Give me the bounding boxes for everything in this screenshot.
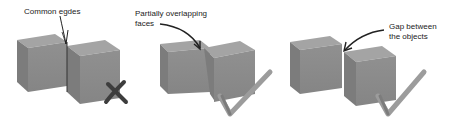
- cube-left-3: [290, 36, 342, 94]
- cube-left-2: [160, 40, 210, 94]
- panel-gap-between: [290, 30, 424, 114]
- diagram-canvas: [0, 0, 452, 126]
- panel-overlapping-faces: [160, 24, 270, 114]
- cube-left-1: [17, 34, 67, 92]
- panel-common-edges: [17, 16, 126, 104]
- cube-right-3: [344, 46, 396, 106]
